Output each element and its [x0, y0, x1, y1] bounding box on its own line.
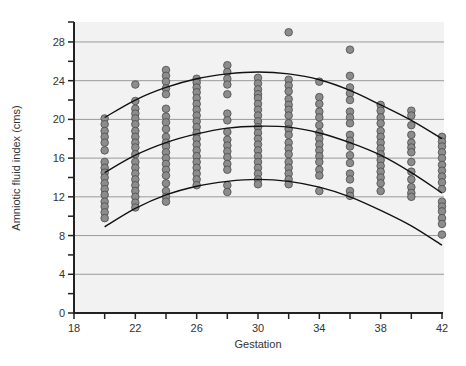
data-point [408, 149, 416, 157]
data-point [408, 158, 416, 166]
data-point [162, 172, 170, 180]
amniotic-fluid-scatter-chart: 0481216202428 18222630343842 Gestation A… [0, 0, 466, 366]
data-point [254, 180, 262, 188]
data-point [285, 131, 293, 139]
data-point [346, 46, 354, 54]
data-point [316, 158, 324, 166]
data-point [101, 147, 109, 155]
x-tick-label: 22 [129, 322, 141, 334]
x-axis-title: Gestation [234, 338, 281, 350]
data-point [316, 114, 324, 122]
data-point [162, 198, 170, 206]
y-tick-label: 20 [53, 113, 65, 125]
data-point [224, 81, 232, 89]
data-point [224, 128, 232, 136]
data-point [101, 139, 109, 147]
y-tick-label: 12 [53, 191, 65, 203]
data-point [438, 220, 446, 228]
data-point [224, 188, 232, 196]
data-point [377, 179, 385, 187]
data-point [224, 166, 232, 174]
data-point [224, 90, 232, 98]
y-tick-label: 4 [59, 268, 65, 280]
data-point [162, 125, 170, 133]
data-point [346, 119, 354, 127]
data-point [408, 131, 416, 139]
data-point [408, 176, 416, 184]
data-point [316, 121, 324, 129]
x-tick-label: 30 [252, 322, 264, 334]
x-tick-label: 34 [313, 322, 325, 334]
x-tick-label: 38 [375, 322, 387, 334]
y-tick-label: 16 [53, 152, 65, 164]
data-point [285, 28, 293, 36]
data-point [346, 96, 354, 104]
data-point [346, 72, 354, 80]
data-point [346, 159, 354, 167]
data-point [408, 193, 416, 201]
data-point [377, 187, 385, 195]
data-point [162, 179, 170, 187]
data-point [162, 105, 170, 113]
y-tick-label: 8 [59, 230, 65, 242]
data-point [162, 90, 170, 98]
y-tick-label: 24 [53, 75, 65, 87]
x-axis-ticks: 18222630343842 [68, 313, 448, 334]
data-point [438, 231, 446, 239]
data-point [285, 150, 293, 158]
data-point [132, 81, 140, 89]
data-point [346, 176, 354, 184]
data-point [346, 151, 354, 159]
data-point [285, 112, 293, 120]
x-tick-label: 26 [191, 322, 203, 334]
data-point [285, 88, 293, 96]
y-axis-ticks: 0481216202428 [53, 36, 74, 319]
data-point [316, 172, 324, 180]
y-tick-label: 28 [53, 36, 65, 48]
data-point [224, 117, 232, 125]
y-axis-title: Amniotic fluid index (cms) [10, 105, 22, 230]
y-tick-label: 0 [59, 307, 65, 319]
data-point [101, 214, 109, 222]
x-tick-label: 42 [436, 322, 448, 334]
x-tick-label: 18 [68, 322, 80, 334]
data-point [377, 119, 385, 127]
data-point [316, 100, 324, 108]
